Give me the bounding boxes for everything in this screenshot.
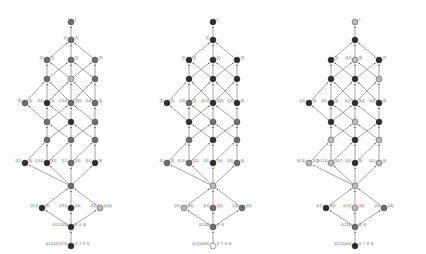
lattice-node[interactable]: [234, 137, 240, 143]
lattice-node[interactable]: [352, 76, 358, 82]
lattice-node[interactable]: [186, 160, 192, 166]
lattice-node[interactable]: [352, 224, 358, 230]
lattice-node[interactable]: [186, 100, 192, 106]
lattice-node[interactable]: [352, 19, 358, 25]
lattice-node[interactable]: [239, 205, 245, 211]
node-label: (4): [335, 101, 338, 104]
lattice-node[interactable]: [22, 100, 28, 106]
lattice-node[interactable]: [381, 205, 387, 211]
lattice-node[interactable]: [92, 76, 98, 82]
lattice-edge: [50, 63, 68, 77]
lattice-node[interactable]: [68, 76, 74, 82]
lattice-node[interactable]: [234, 76, 240, 82]
lattice-node[interactable]: [352, 160, 358, 166]
lattice-node[interactable]: [210, 57, 216, 63]
lattice-node[interactable]: [68, 243, 74, 249]
lattice-node[interactable]: [376, 160, 382, 166]
lattice-edge: [73, 63, 91, 77]
lattice-node[interactable]: [210, 243, 216, 249]
lattice-node[interactable]: [234, 100, 240, 106]
lattice-edge: [216, 106, 234, 120]
lattice-node[interactable]: [44, 119, 50, 125]
lattice-node[interactable]: [44, 57, 50, 63]
lattice-node[interactable]: [210, 19, 216, 25]
lattice-node[interactable]: [352, 37, 358, 43]
lattice-node[interactable]: [68, 119, 74, 125]
lattice-node[interactable]: [376, 57, 382, 63]
lattice-node[interactable]: [352, 243, 358, 249]
lattice-node[interactable]: [376, 76, 382, 82]
lattice-node[interactable]: [186, 57, 192, 63]
lattice-node[interactable]: [39, 205, 45, 211]
lattice-node[interactable]: [323, 205, 329, 211]
lattice-node[interactable]: [328, 137, 334, 143]
lattice-node[interactable]: [68, 19, 74, 25]
lattice-edge: [169, 82, 186, 101]
lattice-node[interactable]: [352, 57, 358, 63]
lattice-node[interactable]: [306, 160, 312, 166]
lattice-node[interactable]: [234, 160, 240, 166]
lattice-edge: [217, 189, 240, 207]
lattice-node[interactable]: [164, 160, 170, 166]
lattice-node[interactable]: [376, 100, 382, 106]
lattice-node[interactable]: [352, 137, 358, 143]
lattice-node[interactable]: [210, 160, 216, 166]
lattice-node[interactable]: [92, 160, 98, 166]
lattice-node[interactable]: [210, 183, 216, 189]
node-label: (1): [206, 38, 209, 41]
lattice-node[interactable]: [328, 119, 334, 125]
lattice-node[interactable]: [22, 160, 28, 166]
lattice-node[interactable]: [92, 100, 98, 106]
lattice-node[interactable]: [92, 57, 98, 63]
node-label: (6): [383, 161, 386, 164]
lattice-node[interactable]: [68, 205, 74, 211]
lattice-node[interactable]: [352, 119, 358, 125]
lattice-node[interactable]: [92, 137, 98, 143]
lattice-node[interactable]: [68, 57, 74, 63]
lattice-node[interactable]: [328, 57, 334, 63]
lattice-node[interactable]: [181, 205, 187, 211]
lattice-node[interactable]: [92, 119, 98, 125]
lattice-node[interactable]: [68, 224, 74, 230]
lattice-node[interactable]: [210, 37, 216, 43]
lattice-node[interactable]: [352, 183, 358, 189]
lattice-node[interactable]: [234, 119, 240, 125]
lattice-node[interactable]: [328, 76, 334, 82]
lattice-node[interactable]: [68, 37, 74, 43]
lattice-edge: [357, 125, 375, 139]
lattice-node[interactable]: [164, 100, 170, 106]
lattice-node[interactable]: [44, 100, 50, 106]
lattice-node[interactable]: [44, 160, 50, 166]
lattice-node[interactable]: [186, 137, 192, 143]
lattice-node[interactable]: [44, 76, 50, 82]
lattice-node[interactable]: [210, 205, 216, 211]
lattice-node[interactable]: [328, 100, 334, 106]
lattice-node[interactable]: [44, 137, 50, 143]
lattice-node[interactable]: [210, 76, 216, 82]
lattice-node[interactable]: [352, 205, 358, 211]
lattice-node[interactable]: [234, 57, 240, 63]
lattice-edge: [191, 143, 210, 161]
lattice-edge: [357, 143, 376, 161]
lattice-node[interactable]: [306, 100, 312, 106]
node-label: (6): [359, 161, 362, 164]
lattice-node[interactable]: [68, 160, 74, 166]
lattice-node[interactable]: [210, 224, 216, 230]
node-label: (4,6,7): [335, 161, 343, 164]
lattice-node[interactable]: [186, 76, 192, 82]
lattice-node[interactable]: [68, 100, 74, 106]
lattice-node[interactable]: [328, 160, 334, 166]
lattice-node[interactable]: [376, 137, 382, 143]
lattice-node[interactable]: [376, 119, 382, 125]
lattice-edge: [28, 106, 44, 120]
lattice-edge: [192, 166, 211, 184]
lattice-node[interactable]: [210, 119, 216, 125]
lattice-node[interactable]: [210, 100, 216, 106]
lattice-node[interactable]: [352, 100, 358, 106]
node-label: (0,1,2,3,4,5,6,7,8): [46, 244, 67, 247]
lattice-node[interactable]: [68, 137, 74, 143]
lattice-node[interactable]: [97, 205, 103, 211]
lattice-node[interactable]: [186, 119, 192, 125]
lattice-node[interactable]: [68, 183, 74, 189]
lattice-node[interactable]: [210, 137, 216, 143]
